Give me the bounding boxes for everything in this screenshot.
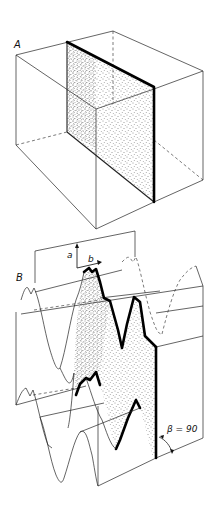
panel-a-block: A (13, 31, 203, 229)
panel-a-label: A (13, 39, 21, 50)
diagram-canvas: A (0, 0, 217, 508)
panel-b-folded-block: a b β = 90 B (16, 231, 203, 486)
axis-a-label: a (67, 250, 73, 260)
angle-beta-indicator: β = 90 (159, 424, 198, 454)
axis-b-label: b (88, 254, 94, 264)
axes-indicator: a b (67, 243, 102, 268)
panel-b-label: B (16, 272, 23, 283)
angle-beta-label: β = 90 (166, 424, 198, 434)
